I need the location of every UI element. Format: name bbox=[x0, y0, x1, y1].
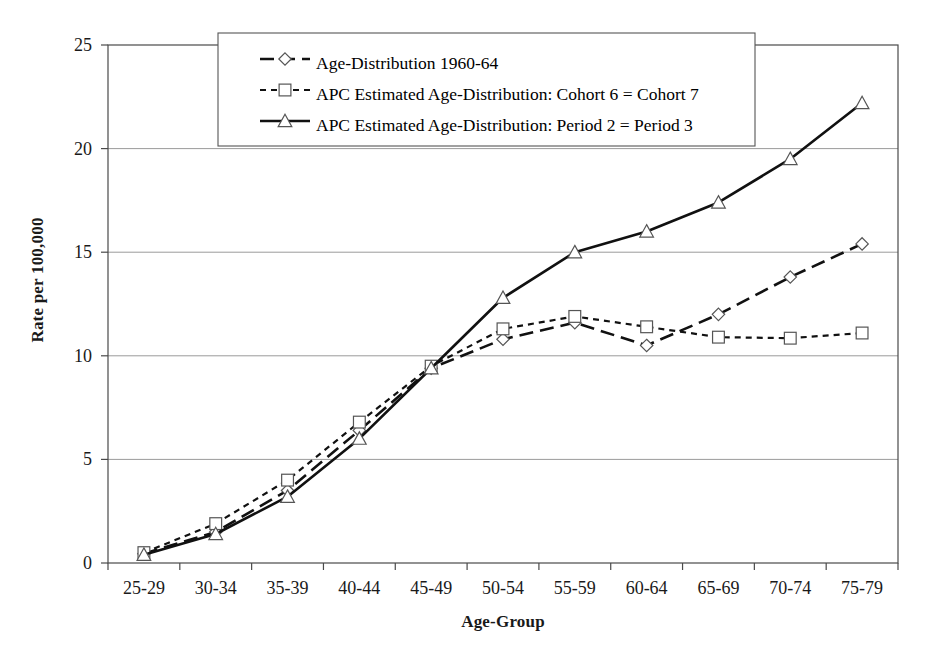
diamond-marker bbox=[784, 271, 796, 283]
square-marker bbox=[856, 327, 868, 339]
series-1 bbox=[138, 238, 869, 560]
chart-legend: Age-Distribution 1960-64APC Estimated Ag… bbox=[218, 33, 755, 146]
triangle-marker bbox=[855, 96, 869, 108]
x-tick-label: 30-34 bbox=[180, 579, 252, 597]
diamond-marker bbox=[640, 339, 652, 351]
y-tick-label: 20 bbox=[38, 140, 92, 158]
x-tick-label: 40-44 bbox=[323, 579, 395, 597]
legend-entry-label: APC Estimated Age-Distribution: Period 2… bbox=[316, 115, 693, 135]
square-marker bbox=[282, 474, 294, 486]
y-tick-label: 15 bbox=[38, 243, 92, 261]
x-axis-title: Age-Group bbox=[108, 612, 898, 632]
series-line bbox=[144, 316, 862, 552]
square-marker bbox=[784, 332, 796, 344]
legend-entry-label: Age-Distribution 1960-64 bbox=[316, 53, 499, 73]
gridlines-group bbox=[108, 149, 898, 460]
diamond-marker bbox=[856, 238, 868, 250]
square-marker bbox=[641, 321, 653, 333]
x-tick-label: 70-74 bbox=[754, 579, 826, 597]
x-tick-label: 50-54 bbox=[467, 579, 539, 597]
square-marker bbox=[569, 311, 581, 323]
triangle-marker bbox=[712, 196, 726, 208]
chart-container: Rate per 100,000 Age-Group Age-Distribut… bbox=[0, 0, 934, 659]
x-tick-label: 25-29 bbox=[108, 579, 180, 597]
square-marker bbox=[713, 331, 725, 343]
square-marker bbox=[497, 323, 509, 335]
y-tick-label: 10 bbox=[38, 347, 92, 365]
diamond-marker bbox=[712, 308, 724, 320]
legend-entry-label: APC Estimated Age-Distribution: Cohort 6… bbox=[316, 84, 699, 104]
series-2 bbox=[138, 311, 868, 559]
x-tick-label: 65-69 bbox=[683, 579, 755, 597]
series-layer bbox=[137, 96, 869, 560]
line-chart-plot: Age-Distribution 1960-64APC Estimated Ag… bbox=[0, 0, 934, 659]
x-tick-label: 35-39 bbox=[252, 579, 324, 597]
y-tick-label: 5 bbox=[38, 450, 92, 468]
x-tick-label: 75-79 bbox=[826, 579, 898, 597]
square-marker bbox=[353, 416, 365, 428]
x-tick-label: 55-59 bbox=[539, 579, 611, 597]
x-tick-label: 45-49 bbox=[395, 579, 467, 597]
x-tick-label: 60-64 bbox=[611, 579, 683, 597]
y-tick-label: 0 bbox=[38, 554, 92, 572]
triangle-marker bbox=[496, 291, 510, 303]
y-tick-label: 25 bbox=[38, 36, 92, 54]
square-marker bbox=[279, 84, 291, 96]
